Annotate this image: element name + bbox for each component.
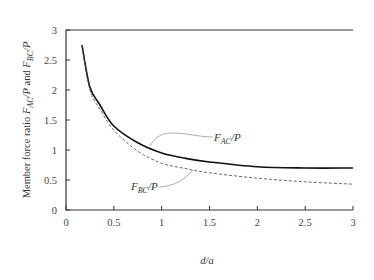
x-tick-label: 2 (255, 217, 260, 228)
y-tick-label: 3 (52, 25, 57, 36)
x-tick-label: 3 (350, 217, 355, 228)
y-axis-title: Member force ratio FAC/P and FBC/P (21, 41, 35, 198)
x-tick-label: 1.5 (203, 217, 216, 228)
y-tick-label: 2 (52, 85, 57, 96)
x-tick-label: 1 (159, 217, 164, 228)
y-tick-label: 0.5 (44, 175, 57, 186)
y-tick-label: 0 (52, 205, 57, 216)
force-ratio-chart: 00.511.522.5300.511.522.53 FAC/P FBC/P d… (0, 0, 374, 280)
y-tick-label: 2.5 (44, 55, 57, 66)
x-tick-label: 2.5 (299, 217, 312, 228)
x-tick-label: 0 (63, 217, 68, 228)
y-tick-label: 1.5 (44, 115, 57, 126)
fac-leader-line (150, 133, 213, 146)
x-tick-label: 0.5 (107, 217, 120, 228)
x-axis-title: d/a (200, 255, 213, 266)
fbc-leader-line (159, 170, 193, 187)
fbc-label: FBC/P (130, 180, 158, 195)
y-tick-label: 1 (52, 145, 57, 156)
fac-series-line (82, 45, 353, 168)
tick-labels: 00.511.522.5300.511.522.53 (44, 25, 356, 229)
fac-label: FAC/P (213, 131, 241, 146)
plot-lines (82, 45, 353, 184)
